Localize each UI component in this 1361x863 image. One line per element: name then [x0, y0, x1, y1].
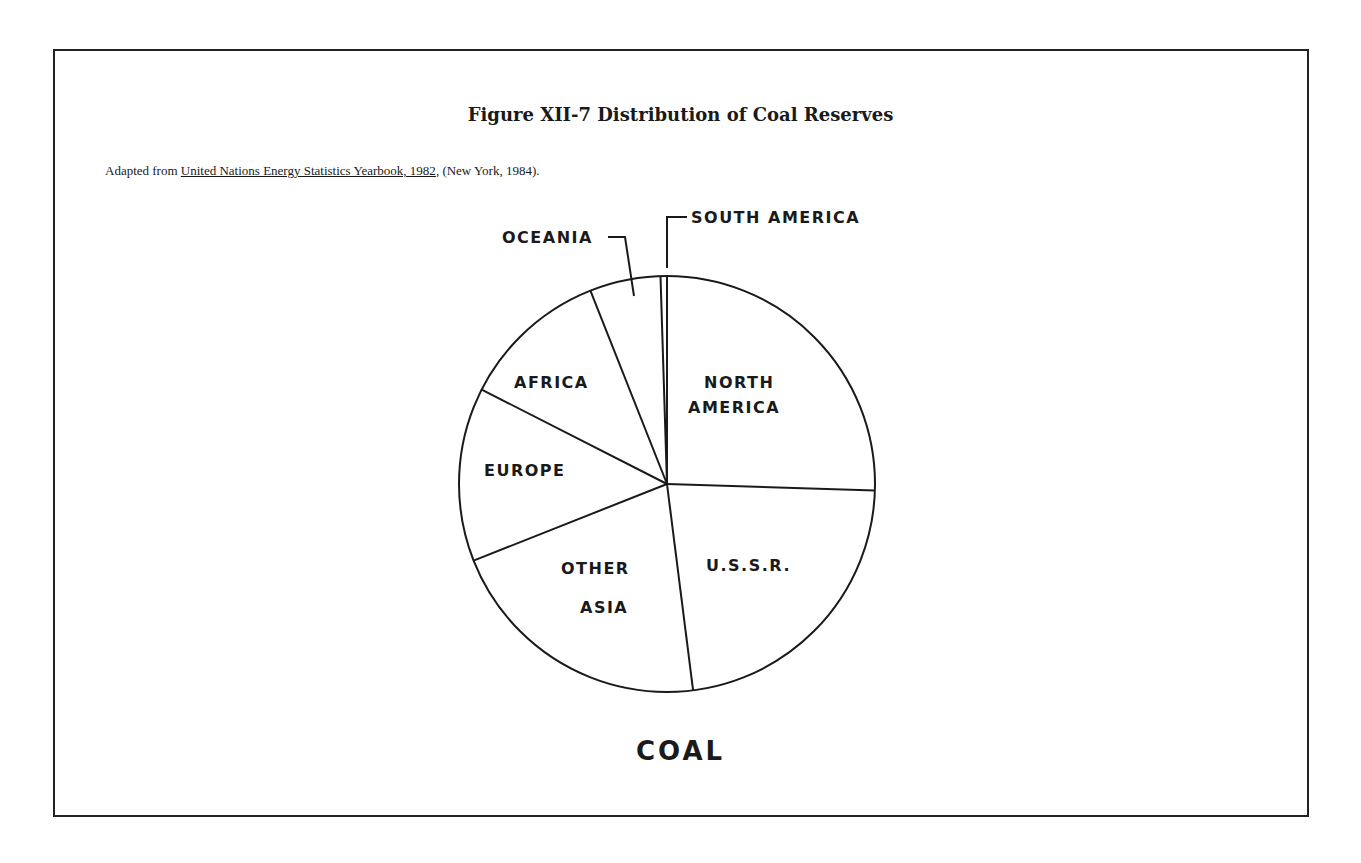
label-other-asia-1: OTHER [561, 559, 630, 578]
label-south-america: SOUTH AMERICA [691, 208, 860, 227]
slice-divider [667, 484, 875, 491]
slice-divider [590, 291, 667, 484]
label-north-america-1: NORTH [704, 373, 774, 392]
label-africa: AFRICA [514, 373, 589, 392]
label-ussr: U.S.S.R. [706, 556, 791, 575]
label-oceania: OCEANIA [502, 228, 593, 247]
oceania-leader [608, 237, 634, 296]
label-europe: EUROPE [484, 461, 566, 480]
chart-caption: COAL [0, 736, 1361, 766]
label-other-asia-2: ASIA [580, 598, 628, 617]
slice-divider [474, 484, 667, 561]
label-north-america-2: AMERICA [688, 398, 780, 417]
south-america-leader [667, 217, 687, 268]
slice-divider [667, 484, 693, 690]
pie-chart: SOUTH AMERICA OCEANIA NORTH AMERICA AFRI… [0, 0, 1361, 863]
